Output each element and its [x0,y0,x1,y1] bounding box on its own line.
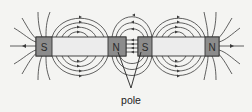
pole-label-s: S [41,42,48,53]
pole-label-n: N [112,42,119,53]
pole-pointer-lines [118,52,141,88]
bar-magnet-2: S N [138,37,219,56]
pole-label: pole [121,94,141,106]
pole-label-n: N [208,42,215,53]
bar-magnet-1: S N [36,37,126,56]
bar-magnet-diagram: S N S N pole [0,0,252,112]
pole-label-s: S [142,42,149,53]
